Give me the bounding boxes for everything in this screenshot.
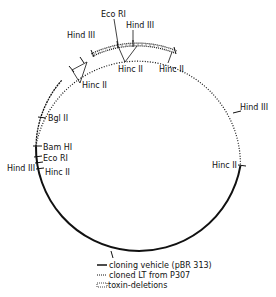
plasmid-map: Hinc II Hind III Hinc II Hind III Eco RI… xyxy=(0,0,276,297)
label-hind3-right: Hind III xyxy=(240,103,268,112)
label-hinc2-top-right: Hinc II xyxy=(159,65,184,74)
label-hinc2-right: Hinc II xyxy=(212,161,237,170)
legend-hatched-swatch xyxy=(97,283,107,287)
legend-label-dotted: cloned LT from P307 xyxy=(109,271,190,280)
legend-label-solid: cloning vehicle (pBR 313) xyxy=(109,261,212,270)
label-eco-ri-left: Eco RI xyxy=(43,154,68,163)
label-bgl2: Bgl II xyxy=(48,114,68,123)
label-eco-ri-top: Eco RI xyxy=(101,10,126,19)
label-hind3-left: Hind III xyxy=(7,164,35,173)
label-hinc2-top-center: Hinc II xyxy=(118,65,143,74)
legend-label-hatched: toxin-deletions xyxy=(108,281,167,290)
legend: cloning vehicle (pBR 313) cloned LT from… xyxy=(97,261,212,290)
label-bam-hi: Bam HI xyxy=(43,143,72,152)
label-hinc2-left: Hinc II xyxy=(45,168,70,177)
label-hinc2-top-left: Hinc II xyxy=(82,81,107,90)
label-hind3-top-left: Hind III xyxy=(67,31,95,40)
label-hind3-top: Hind III xyxy=(126,21,154,30)
site-labels: Hinc II Hind III Hinc II Hind III Eco RI… xyxy=(7,10,268,177)
